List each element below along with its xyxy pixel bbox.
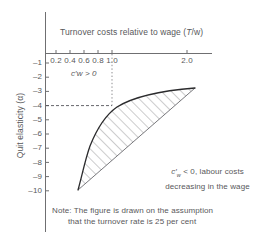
y-tick-label: –1 — [20, 58, 42, 67]
negative-region-annotation: c′w < 0, labour costs decreasing in the … — [155, 166, 260, 192]
y-tick-label: –6 — [20, 129, 42, 138]
note-line-1: Note: The figure is drawn on the assumpt… — [52, 206, 213, 215]
figure-note: Note: The figure is drawn on the assumpt… — [52, 205, 257, 227]
positive-region-annotation: c′w > 0 — [71, 69, 97, 78]
figure-container: Turnover costs relative to wage (T/w) Qu… — [0, 0, 268, 240]
note-line-2: that the turnover rate is 25 per cent — [52, 216, 257, 227]
x-tick-label: 1.0 — [102, 56, 122, 65]
x-axis-title: Turnover costs relative to wage (T/w) — [60, 28, 203, 37]
y-tick-label: –7 — [20, 143, 42, 152]
y-tick-label: –2 — [20, 72, 42, 81]
y-tick-label: –9 — [20, 172, 42, 181]
y-tick-label: –8 — [20, 158, 42, 167]
y-tick-label: –5 — [20, 115, 42, 124]
y-tick-label: –4 — [20, 101, 42, 110]
y-tick-label: –3 — [20, 86, 42, 95]
y-tick-label: –10 — [17, 186, 42, 195]
x-tick-marks — [56, 50, 187, 54]
y-tick-marks — [46, 63, 50, 191]
x-tick-label: 2.0 — [177, 56, 197, 65]
